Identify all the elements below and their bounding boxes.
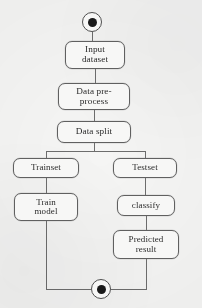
node-data-preprocess: Data pre- process bbox=[58, 83, 130, 110]
start-node bbox=[82, 12, 102, 32]
node-classify-label: classify bbox=[130, 201, 162, 210]
node-predicted-result-label: Predicted result bbox=[127, 235, 166, 254]
node-trainset: Trainset bbox=[13, 158, 79, 178]
activity-diagram-canvas: Input dataset Data pre- process Data spl… bbox=[0, 0, 202, 308]
start-node-dot bbox=[88, 18, 97, 27]
edge-train-model-to-end bbox=[46, 221, 91, 289]
node-predicted-result: Predicted result bbox=[113, 230, 179, 259]
node-train-model: Train model bbox=[14, 193, 78, 221]
node-trainset-label: Trainset bbox=[29, 163, 63, 172]
edge-predicted-result-to-end bbox=[111, 259, 146, 289]
node-data-preprocess-label: Data pre- process bbox=[74, 87, 113, 106]
end-node bbox=[91, 279, 111, 299]
node-testset-label: Testset bbox=[130, 163, 160, 172]
node-testset: Testset bbox=[113, 158, 177, 178]
node-data-split-label: Data split bbox=[74, 127, 114, 137]
node-classify: classify bbox=[117, 195, 175, 216]
node-data-split: Data split bbox=[57, 121, 131, 143]
node-input-dataset-label: Input dataset bbox=[80, 45, 110, 64]
node-train-model-label: Train model bbox=[33, 198, 60, 217]
end-node-dot bbox=[97, 285, 106, 294]
node-input-dataset: Input dataset bbox=[65, 41, 125, 69]
